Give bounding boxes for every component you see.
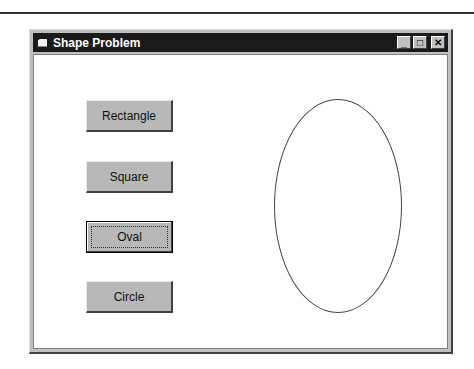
app-icon xyxy=(38,39,47,47)
rectangle-button-label: Rectangle xyxy=(102,109,156,123)
oval-button-label: Oval xyxy=(117,230,142,244)
form-client-area: Rectangle Square Oval Circle xyxy=(33,54,448,349)
page-divider xyxy=(0,12,474,14)
circle-button-label: Circle xyxy=(114,290,145,304)
title-bar[interactable]: Shape Problem _ □ ✕ xyxy=(33,33,448,52)
square-button-label: Square xyxy=(110,170,149,184)
close-button[interactable]: ✕ xyxy=(431,36,445,49)
shape-problem-window: Shape Problem _ □ ✕ Rectangle Square Ova… xyxy=(29,29,453,354)
oval-shape xyxy=(274,99,402,313)
square-button[interactable]: Square xyxy=(86,161,173,193)
minimize-button[interactable]: _ xyxy=(397,36,411,49)
circle-button[interactable]: Circle xyxy=(86,281,173,313)
oval-button[interactable]: Oval xyxy=(86,221,173,253)
rectangle-button[interactable]: Rectangle xyxy=(86,100,173,132)
window-controls: _ □ ✕ xyxy=(397,36,445,49)
window-title: Shape Problem xyxy=(53,36,140,50)
maximize-button[interactable]: □ xyxy=(413,36,427,49)
